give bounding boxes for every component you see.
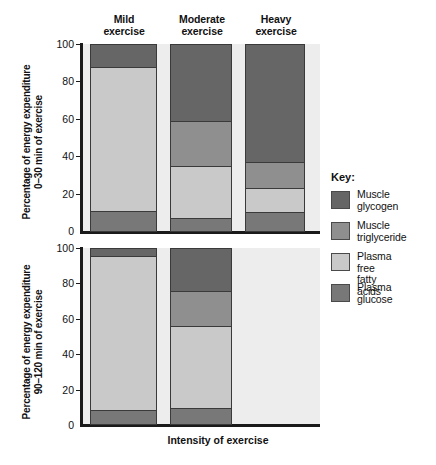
y-tick-40-bottom: 40 — [50, 349, 74, 359]
segment-muscle-glycogen[interactable] — [91, 249, 156, 256]
legend: Key: Muscle glycogen Muscle triglyceride… — [331, 171, 436, 291]
bar-moderate-90-120[interactable] — [170, 248, 232, 425]
y-axis-label-90-120: Percentage of energy expenditure 90–120 … — [21, 247, 45, 437]
legend-label-muscle-glycogen: Muscle glycogen — [357, 189, 398, 212]
x-axis-title: Intensity of exercise — [0, 434, 436, 446]
segment-muscle-triglyceride[interactable] — [171, 291, 231, 326]
legend-label-muscle-triglyceride: Muscle triglyceride — [357, 220, 407, 243]
y-axis-line-90-120 — [80, 247, 83, 426]
y-axis-label-90-120-line2: 90–120 min of exercise — [33, 290, 44, 395]
segment-muscle-glycogen[interactable] — [171, 249, 231, 291]
segment-plasma-glucose[interactable] — [91, 410, 156, 424]
y-tick-0-bottom: 0 — [50, 420, 74, 430]
y-tick-60-bottom: 60 — [50, 314, 74, 324]
legend-title: Key: — [331, 171, 355, 183]
segment-plasma-free-fatty-acids[interactable] — [171, 326, 231, 408]
y-tick-20-bottom: 20 — [50, 385, 74, 395]
legend-label-plasma-glucose: Plasma glucose — [357, 282, 393, 305]
segment-plasma-glucose[interactable] — [171, 408, 231, 424]
legend-swatch-plasma-glucose — [331, 284, 350, 302]
segment-plasma-free-fatty-acids[interactable] — [91, 256, 156, 410]
legend-swatch-plasma-free-fatty-acids — [331, 253, 350, 271]
legend-swatch-muscle-triglyceride — [331, 222, 350, 240]
y-tick-80-bottom: 80 — [50, 278, 74, 288]
bar-mild-90-120[interactable] — [90, 248, 157, 425]
y-axis-label-90-120-line1: Percentage of energy expenditure — [21, 265, 32, 420]
legend-swatch-muscle-glycogen — [331, 191, 350, 209]
y-tick-100-bottom: 100 — [50, 243, 74, 253]
